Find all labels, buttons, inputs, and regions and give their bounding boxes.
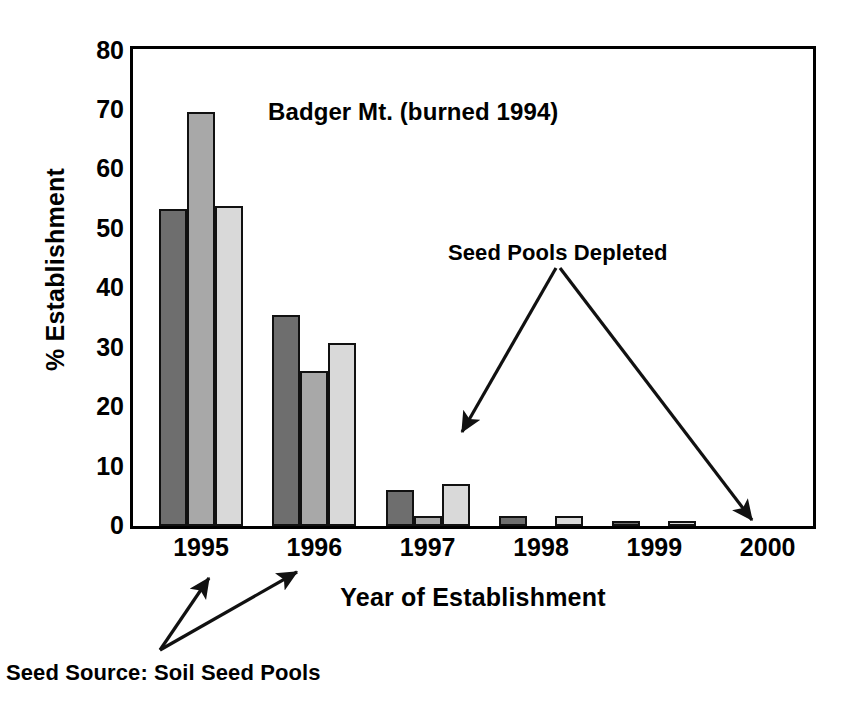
y-tick-60: 60 <box>64 156 124 181</box>
x-tick-1999: 1999 <box>627 533 683 562</box>
bar-1998-series-1 <box>499 516 527 526</box>
x-tick-2000: 2000 <box>740 533 796 562</box>
x-tick-1996: 1996 <box>287 533 343 562</box>
annotation-seed-pools-depleted: Seed Pools Depleted <box>448 240 668 266</box>
bar-1996-series-3 <box>328 343 356 526</box>
bar-group-1995 <box>133 49 246 526</box>
bar-1995-series-3 <box>215 206 243 526</box>
bar-1995-series-2 <box>187 112 215 526</box>
y-tick-0: 0 <box>64 513 124 538</box>
bar-1998-series-3 <box>555 516 583 526</box>
bar-1996-series-2 <box>300 371 328 526</box>
x-axis-title: Year of Establishment <box>130 583 816 612</box>
y-tick-10: 10 <box>64 454 124 479</box>
bar-1999-series-3 <box>668 521 696 526</box>
bar-group-1999 <box>586 49 699 526</box>
y-tick-80: 80 <box>64 38 124 63</box>
bar-1997-series-1 <box>386 490 414 526</box>
y-tick-50: 50 <box>64 216 124 241</box>
x-tick-1995: 1995 <box>173 533 229 562</box>
bar-1997-series-3 <box>442 484 470 526</box>
annotation-seed-source: Seed Source: Soil Seed Pools <box>6 660 321 686</box>
bar-1996-series-1 <box>272 315 300 526</box>
y-tick-40: 40 <box>64 275 124 300</box>
y-axis-tick-labels: 80 70 60 50 40 30 20 10 0 <box>62 0 124 707</box>
bar-1997-series-2 <box>414 516 442 526</box>
bar-1995-series-1 <box>159 209 187 526</box>
bar-group-2000 <box>700 49 813 526</box>
y-tick-30: 30 <box>64 335 124 360</box>
y-tick-20: 20 <box>64 394 124 419</box>
x-tick-1997: 1997 <box>400 533 456 562</box>
y-tick-70: 70 <box>64 97 124 122</box>
x-tick-1998: 1998 <box>513 533 569 562</box>
bar-1999-series-1 <box>612 521 640 526</box>
chart-title: Badger Mt. (burned 1994) <box>268 98 558 126</box>
x-axis-tick-labels: 199519961997199819992000 <box>130 533 816 571</box>
chart-figure: % Establishment 80 70 60 50 40 30 20 10 … <box>0 0 850 707</box>
